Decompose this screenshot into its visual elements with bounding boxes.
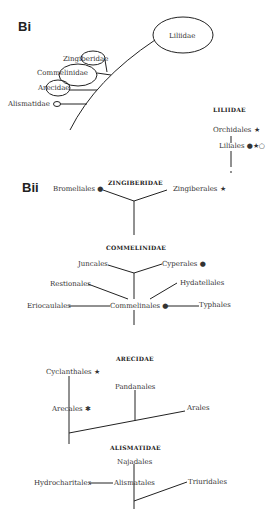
alismatidae-title: ALISMATIDAE [110, 445, 161, 451]
order-najadales: Najadales [117, 459, 152, 466]
panel-label-bi: Bi [18, 20, 31, 33]
bi-arecidae-label: Arecidae [38, 85, 70, 92]
order-cyperales: Cyperales ● [162, 261, 206, 268]
order-zingiberales: Zingiberales ★ [173, 186, 226, 193]
order-cyclanthales: Cyclanthales ★ [46, 369, 100, 376]
order-juncales: Juncales [78, 261, 108, 268]
panel-label-bii: Bii [22, 181, 39, 194]
order-eriocaulales: Eriocaulales [27, 303, 71, 310]
bi-zingiberidae-label: Zingiberidae [63, 56, 108, 63]
bi-liliidae-label: Liliidae [169, 33, 195, 40]
bi-commelinidae-label: Commelinidae [37, 70, 88, 77]
order-hydrocharitales: Hydrocharitales [34, 480, 91, 487]
order-bromeliales: Bromeliales ● [53, 186, 103, 193]
bi-alismatidae-label: Alismatidae [8, 101, 50, 108]
order-commelinales: Commelinales ● [110, 303, 168, 310]
order-triuridales: Triuridales [188, 479, 227, 486]
order-orchidales: Orchidales ★ [213, 127, 260, 134]
alismatidae-ellipse [54, 102, 61, 107]
order-arales: Arales [187, 405, 210, 412]
commelinidae-title: COMMELINIDAE [106, 245, 166, 251]
order-pandanales: Pandanales [115, 384, 155, 391]
order-alismatales: Alismatales [114, 480, 155, 487]
liliidae-title: LILIIDAE [213, 107, 246, 113]
zingiberidae-title: ZINGIBERIDAE [108, 180, 163, 186]
bi-main-axis [70, 40, 155, 130]
order-liliales: Liliales ●★○ [219, 143, 265, 150]
order-arecales: Arecales ✱ [52, 406, 91, 413]
order-typhales: Typhales [199, 302, 231, 309]
order-restionales: Restionales [50, 281, 91, 288]
order-hydatellales: Hydatellales [180, 280, 224, 287]
arecidae-title: ARECIDAE [116, 356, 154, 362]
